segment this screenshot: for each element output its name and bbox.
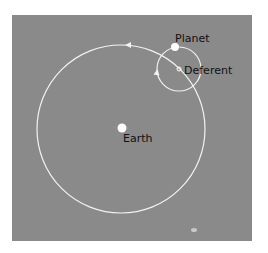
stray-mark <box>191 228 197 232</box>
epicycle-diagram <box>0 0 268 253</box>
planet-label: Planet <box>175 33 209 44</box>
earth-label: Earth <box>123 133 153 144</box>
deferent-direction-arrow <box>125 42 131 48</box>
deferent-label: Deferent <box>184 65 232 76</box>
